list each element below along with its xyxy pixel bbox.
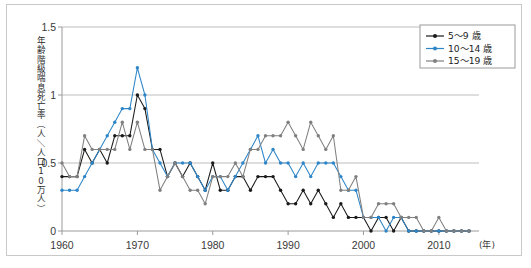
data-point bbox=[196, 189, 199, 192]
data-point bbox=[430, 229, 433, 232]
y-axis-title-char: ／ bbox=[36, 139, 46, 148]
data-point bbox=[211, 161, 214, 164]
asthma-mortality-line-chart: 00.511.5 196019701980199020002010 年齢階級喘息… bbox=[0, 0, 531, 268]
data-point bbox=[136, 66, 139, 69]
data-point bbox=[377, 202, 380, 205]
series-2 bbox=[60, 66, 470, 233]
data-point bbox=[309, 175, 312, 178]
data-point bbox=[106, 148, 109, 151]
data-point bbox=[121, 134, 124, 137]
data-point bbox=[188, 161, 191, 164]
y-axis-title-char: （ bbox=[36, 120, 46, 129]
data-point bbox=[460, 229, 463, 232]
data-point bbox=[286, 161, 289, 164]
data-point bbox=[75, 175, 78, 178]
data-point bbox=[83, 148, 86, 151]
x-tick-label: 2000 bbox=[352, 239, 376, 251]
data-point bbox=[121, 121, 124, 124]
data-point bbox=[301, 148, 304, 151]
data-point bbox=[354, 175, 357, 178]
legend-item-label: 15〜19 歳 bbox=[448, 55, 492, 66]
data-point bbox=[90, 148, 93, 151]
data-point bbox=[317, 189, 320, 192]
data-point bbox=[68, 189, 71, 192]
data-point bbox=[113, 121, 116, 124]
y-axis-title: 年齢階級喘息死亡率（人／人口10万人） bbox=[36, 35, 46, 213]
data-point bbox=[249, 148, 252, 151]
data-point bbox=[354, 216, 357, 219]
legend-item-label: 5〜9 歳 bbox=[448, 30, 481, 41]
data-point bbox=[271, 148, 274, 151]
data-point bbox=[83, 175, 86, 178]
data-point bbox=[128, 134, 131, 137]
data-point bbox=[181, 175, 184, 178]
data-point bbox=[113, 148, 116, 151]
data-point bbox=[407, 229, 410, 232]
legend-swatch-marker bbox=[433, 47, 437, 51]
data-point bbox=[339, 189, 342, 192]
legend-swatch-marker bbox=[433, 34, 437, 38]
y-axis-title-char: 人 bbox=[37, 129, 46, 139]
data-point bbox=[181, 161, 184, 164]
data-point bbox=[279, 161, 282, 164]
data-point bbox=[437, 216, 440, 219]
data-point bbox=[241, 175, 244, 178]
data-point bbox=[392, 216, 395, 219]
data-point bbox=[332, 216, 335, 219]
data-point bbox=[339, 202, 342, 205]
data-point bbox=[309, 202, 312, 205]
data-point bbox=[128, 148, 131, 151]
data-point bbox=[301, 161, 304, 164]
data-point bbox=[347, 189, 350, 192]
x-tick-label: 1980 bbox=[201, 239, 225, 251]
data-point bbox=[324, 202, 327, 205]
chart-legend: 5〜9 歳10〜14 歳15〜19 歳 bbox=[420, 25, 515, 68]
y-axis-title-char: ） bbox=[36, 204, 46, 213]
data-point bbox=[294, 175, 297, 178]
data-point bbox=[143, 148, 146, 151]
data-point bbox=[256, 148, 259, 151]
data-point bbox=[415, 216, 418, 219]
data-point bbox=[362, 216, 365, 219]
data-point bbox=[60, 189, 63, 192]
data-point bbox=[60, 161, 63, 164]
y-axis-title-char: 人 bbox=[37, 194, 46, 204]
data-point bbox=[384, 229, 387, 232]
data-point bbox=[60, 175, 63, 178]
data-point bbox=[75, 189, 78, 192]
data-point bbox=[113, 134, 116, 137]
data-point bbox=[279, 189, 282, 192]
data-point bbox=[347, 216, 350, 219]
data-point bbox=[271, 175, 274, 178]
x-tick-label: 1990 bbox=[276, 239, 300, 251]
data-point bbox=[324, 161, 327, 164]
x-tick-label: 1970 bbox=[126, 239, 150, 251]
y-axis-title-char: 率 bbox=[37, 109, 46, 120]
data-point bbox=[166, 175, 169, 178]
data-point bbox=[422, 229, 425, 232]
data-point bbox=[249, 189, 252, 192]
data-point bbox=[407, 216, 410, 219]
data-point bbox=[317, 134, 320, 137]
data-point bbox=[384, 202, 387, 205]
data-point bbox=[204, 189, 207, 192]
data-point bbox=[309, 121, 312, 124]
data-point bbox=[204, 202, 207, 205]
data-point bbox=[226, 175, 229, 178]
data-point bbox=[369, 216, 372, 219]
data-point bbox=[437, 229, 440, 232]
data-point bbox=[256, 134, 259, 137]
data-point bbox=[354, 189, 357, 192]
data-point bbox=[151, 148, 154, 151]
x-axis-unit-label: (年) bbox=[479, 239, 495, 250]
x-axis-tick-labels: 196019701980199020002010 bbox=[50, 231, 450, 251]
data-point bbox=[90, 161, 93, 164]
data-series-layer bbox=[60, 66, 470, 233]
data-point bbox=[301, 189, 304, 192]
data-point bbox=[188, 189, 191, 192]
x-unit-label: (年) bbox=[479, 239, 495, 250]
data-point bbox=[452, 229, 455, 232]
series-line bbox=[62, 68, 469, 231]
data-point bbox=[399, 216, 402, 219]
data-point bbox=[286, 121, 289, 124]
